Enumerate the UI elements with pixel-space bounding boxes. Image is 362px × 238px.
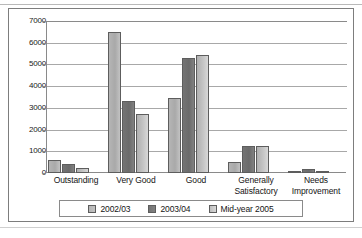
bar xyxy=(62,164,75,173)
x-axis-category-label: Very Good xyxy=(106,175,166,186)
chart-legend: 2002/032003/04Mid-year 2005 xyxy=(59,200,303,217)
legend-swatch-icon xyxy=(148,205,156,213)
bar xyxy=(76,168,89,173)
x-axis-category-label-line: Improvement xyxy=(286,186,346,197)
y-axis-tick-mark xyxy=(42,173,46,174)
x-axis-category-label-line: Generally xyxy=(226,175,286,186)
x-axis-category-label-line: Outstanding xyxy=(46,175,106,186)
legend-label: Mid-year 2005 xyxy=(221,204,274,214)
x-axis-category-label: GenerallySatisfactory xyxy=(226,175,286,196)
x-axis-category-label: NeedsImprovement xyxy=(286,175,346,196)
page-rule-bottom xyxy=(0,227,362,228)
bar xyxy=(136,114,149,173)
bar-group xyxy=(106,21,166,173)
y-axis-tick-label: 1000 xyxy=(12,147,46,155)
bar xyxy=(168,98,181,173)
bars-layer xyxy=(46,21,346,173)
legend-item: Mid-year 2005 xyxy=(209,204,274,214)
y-axis-tick-label: 2000 xyxy=(12,126,46,134)
legend-item: 2003/04 xyxy=(148,204,190,214)
bar-group xyxy=(286,21,346,173)
x-axis-category-label: Good xyxy=(166,175,226,186)
y-axis-tick-label: 3000 xyxy=(12,104,46,112)
bar xyxy=(122,101,135,173)
y-axis: 70006000500040003000200010000 xyxy=(9,21,46,173)
page-root: 70006000500040003000200010000 Outstandin… xyxy=(0,0,362,238)
legend-swatch-icon xyxy=(88,205,96,213)
y-axis-tick-label: 7000 xyxy=(12,17,46,25)
bar-group xyxy=(166,21,226,173)
bar xyxy=(302,169,315,173)
y-axis-tick-label: 5000 xyxy=(12,60,46,68)
bar xyxy=(242,146,255,173)
bar xyxy=(48,160,61,173)
bar xyxy=(182,58,195,173)
x-axis-category-label-line: Good xyxy=(166,175,226,186)
bar-group xyxy=(46,21,106,173)
y-axis-tick-label: 0 xyxy=(12,169,46,177)
x-axis-category-label-line: Very Good xyxy=(106,175,166,186)
y-axis-tick-label: 6000 xyxy=(12,39,46,47)
legend-label: 2002/03 xyxy=(100,204,130,214)
page-rule-top xyxy=(0,4,362,5)
x-axis-category-label-line: Needs xyxy=(286,175,346,186)
chart-frame: 70006000500040003000200010000 Outstandin… xyxy=(8,8,354,222)
bar xyxy=(288,171,301,173)
x-axis-category-label-line: Satisfactory xyxy=(226,186,286,197)
bar xyxy=(316,171,329,173)
x-axis-category-label: Outstanding xyxy=(46,175,106,186)
bar xyxy=(256,146,269,173)
legend-swatch-icon xyxy=(209,205,217,213)
bar-group xyxy=(226,21,286,173)
chart-plot-wrapper: 70006000500040003000200010000 Outstandin… xyxy=(9,9,355,223)
bar xyxy=(108,32,121,173)
legend-label: 2003/04 xyxy=(160,204,190,214)
bar xyxy=(228,162,241,173)
y-axis-tick-label: 4000 xyxy=(12,82,46,90)
bar xyxy=(196,55,209,173)
legend-item: 2002/03 xyxy=(88,204,130,214)
